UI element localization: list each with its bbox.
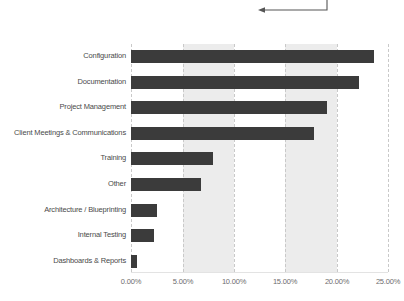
- x-tick-label: 20.00%: [309, 277, 365, 286]
- x-axis-line: [131, 272, 388, 273]
- category-label: Architecture / Blueprinting: [2, 205, 126, 215]
- bar[interactable]: [131, 50, 374, 63]
- plot-area: Configuration Documentation Project Mana…: [0, 0, 404, 301]
- category-label: Other: [2, 179, 126, 189]
- category-label: Documentation: [2, 77, 126, 87]
- bar[interactable]: [131, 229, 154, 242]
- category-label: Configuration: [2, 51, 126, 61]
- category-label: Dashboards & Reports: [2, 256, 126, 266]
- bar-chart: Configuration Documentation Project Mana…: [0, 0, 404, 301]
- category-label: Internal Testing: [2, 230, 126, 240]
- bar[interactable]: [131, 127, 314, 140]
- x-tick-label: 15.00%: [257, 277, 313, 286]
- gridline-25: [388, 44, 389, 272]
- category-label: Client Meetings & Communications: [2, 128, 126, 138]
- category-label: Project Management: [2, 102, 126, 112]
- category-label: Training: [2, 153, 126, 163]
- x-tick-label: 5.00%: [155, 277, 211, 286]
- bar[interactable]: [131, 255, 137, 268]
- x-tick-label: 10.00%: [206, 277, 262, 286]
- x-tick-label: 0.00%: [103, 277, 159, 286]
- bar[interactable]: [131, 152, 213, 165]
- x-tick-label: 25.00%: [360, 277, 404, 286]
- bar[interactable]: [131, 204, 157, 217]
- bar[interactable]: [131, 101, 327, 114]
- bar[interactable]: [131, 178, 201, 191]
- bar[interactable]: [131, 76, 359, 89]
